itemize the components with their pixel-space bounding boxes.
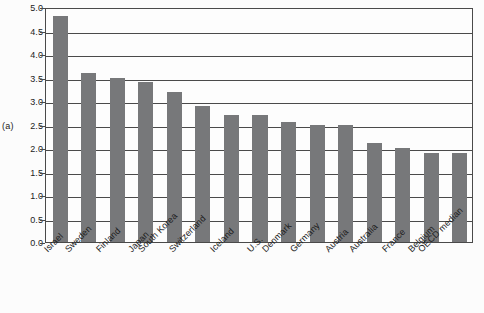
bar-series: [46, 9, 472, 242]
bar: [338, 125, 353, 243]
bar: [138, 82, 153, 242]
bar: [452, 153, 467, 242]
bar: [252, 115, 267, 242]
bar: [110, 78, 125, 243]
bar: [81, 73, 96, 242]
bar: [224, 115, 239, 242]
x-axis-category-labels: IsraelSwedenFinlandJapanSouth KoreaSwitz…: [45, 245, 473, 313]
bar-chart-figure: (a) 0.00.51.01.52.02.53.03.54.04.55.0 Is…: [0, 0, 484, 313]
axis-group-label: (a): [2, 121, 14, 131]
plot-area: [45, 8, 473, 243]
bar: [53, 16, 68, 242]
